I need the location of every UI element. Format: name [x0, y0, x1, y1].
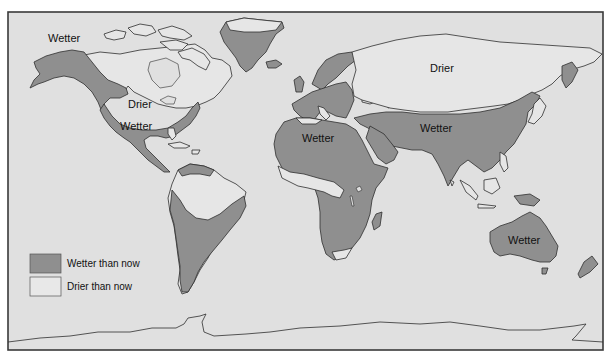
- region-label-north-america-drier: Drier: [128, 98, 152, 110]
- region-label-australia-wetter: Wetter: [508, 234, 541, 246]
- legend-label-drier: Drier than now: [67, 281, 133, 292]
- legend-swatch-wetter: [30, 254, 61, 273]
- region-label-south-asia-wetter: Wetter: [420, 122, 453, 134]
- legend-label-wetter: Wetter than now: [67, 258, 140, 269]
- region-label-siberia-drier: Drier: [430, 62, 454, 74]
- region-label-alaska-wetter: Wetter: [48, 32, 81, 44]
- legend-swatch-drier: [30, 277, 61, 296]
- climate-map: Wetter Drier Wetter Wetter Wetter Drier …: [0, 0, 609, 359]
- region-label-north-africa-wetter: Wetter: [302, 132, 335, 144]
- region-label-central-america-wetter: Wetter: [120, 120, 153, 132]
